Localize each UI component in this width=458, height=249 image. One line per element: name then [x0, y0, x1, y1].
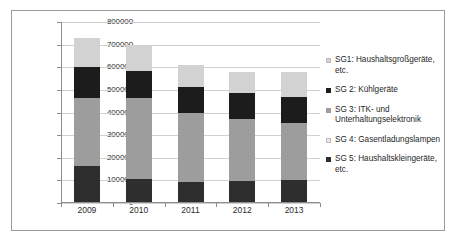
x-axis-tick-mark: [165, 203, 166, 207]
bar-segment[interactable]: [229, 181, 255, 202]
legend-swatch-icon: [326, 88, 331, 93]
legend-item[interactable]: SG 5: Haushaltskleingeräte, etc.: [326, 154, 446, 175]
x-axis-tick-label-2012: 2012: [219, 205, 265, 215]
bar-segment[interactable]: [126, 179, 152, 202]
x-axis-tick-label-2010: 2010: [116, 205, 162, 215]
bar-group-2012[interactable]: [229, 72, 255, 202]
bar-segment[interactable]: [74, 38, 100, 67]
x-axis-tick-mark: [113, 203, 114, 207]
x-axis-tick-label-2009: 2009: [64, 205, 110, 215]
gridline: [61, 203, 320, 204]
bar-group-2010[interactable]: [126, 46, 152, 202]
plot-area: [61, 22, 320, 203]
legend-swatch-icon: [326, 157, 331, 162]
legend-item[interactable]: SG 4: Gasentladungslampen: [326, 135, 446, 146]
legend-label: SG 3: ITK- und Unterhaltungselektronik: [335, 105, 421, 126]
bar-segment[interactable]: [281, 123, 307, 180]
bar-segment[interactable]: [74, 166, 100, 202]
legend-item[interactable]: SG 3: ITK- und Unterhaltungselektronik: [326, 105, 446, 126]
bar-segment[interactable]: [178, 113, 204, 182]
legend-item[interactable]: SG1: Haushaltsgroßgeräte, etc.: [326, 55, 446, 76]
legend-label: SG 2: Kühlgeräte: [335, 85, 398, 96]
legend-label: SG 4: Gasentladungslampen: [335, 135, 440, 146]
legend-label: SG 5: Haushaltskleingeräte, etc.: [335, 154, 437, 175]
legend-swatch-icon: [326, 58, 331, 63]
bar-group-2013[interactable]: [281, 72, 307, 202]
bar-segment[interactable]: [126, 46, 152, 71]
bar-segment[interactable]: [74, 98, 100, 166]
x-axis-tick-mark: [61, 203, 62, 207]
x-axis-tick-label-2011: 2011: [168, 205, 214, 215]
bar-group-2009[interactable]: [74, 38, 100, 202]
bar-segment[interactable]: [281, 180, 307, 202]
bar-group-2011[interactable]: [178, 65, 204, 202]
bar-segment[interactable]: [178, 87, 204, 113]
bar-segment[interactable]: [229, 72, 255, 93]
bar-segment[interactable]: [74, 67, 100, 98]
bar-segment[interactable]: [178, 182, 204, 202]
bar-segment[interactable]: [281, 97, 307, 123]
x-axis-tick-label-2013: 2013: [271, 205, 317, 215]
bars-layer: [61, 22, 320, 203]
bar-segment[interactable]: [126, 98, 152, 179]
x-axis-tick-mark: [268, 203, 269, 207]
bar-segment[interactable]: [126, 71, 152, 98]
bar-segment[interactable]: [178, 65, 204, 87]
legend-swatch-icon: [326, 138, 331, 143]
legend-item[interactable]: SG 2: Kühlgeräte: [326, 85, 446, 96]
x-axis-tick-mark: [216, 203, 217, 207]
bar-segment[interactable]: [229, 119, 255, 182]
bar-segment[interactable]: [229, 93, 255, 119]
chart-screenshot: 0100000200000300000400000500000600000700…: [0, 0, 458, 249]
legend-swatch-icon: [326, 108, 331, 113]
legend-label: SG1: Haushaltsgroßgeräte, etc.: [335, 55, 435, 76]
x-axis-tick-mark: [320, 203, 321, 207]
chart-legend: SG1: Haushaltsgroßgeräte, etc.SG 2: Kühl…: [326, 55, 446, 184]
bar-segment[interactable]: [281, 72, 307, 97]
